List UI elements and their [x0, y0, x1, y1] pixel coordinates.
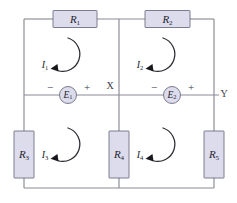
emf-source-E1: − E1 +	[47, 81, 90, 104]
mesh-current-I2-label: I2	[136, 59, 144, 71]
mesh-current-I3-arrowhead	[51, 154, 59, 162]
mesh-current-I3-arc	[58, 128, 80, 161]
mesh-current-I3: I3	[41, 128, 80, 162]
mesh-current-I1-label: I1	[41, 59, 49, 71]
mesh-current-I3-label: I3	[41, 149, 49, 161]
mesh-current-I2: I2	[136, 38, 175, 72]
resistor-R1: R1	[53, 11, 97, 28]
mesh-current-I4-arrowhead	[146, 154, 154, 162]
mesh-current-I4-label: I4	[136, 149, 144, 161]
emf-E1-plus-sign: +	[84, 81, 90, 93]
node-label-X: X	[106, 80, 114, 91]
mesh-current-I4-arc	[153, 128, 175, 161]
emf-E1-minus-sign: −	[47, 81, 53, 93]
circuit-svg: R1 R2 R3 R4 R5	[0, 0, 237, 203]
mesh-current-I1-arc	[58, 38, 80, 71]
resistor-R3: R3	[14, 131, 34, 178]
mesh-current-I2-arrowhead	[146, 64, 154, 72]
circuit-diagram: R1 R2 R3 R4 R5	[0, 0, 237, 203]
mesh-current-I4: I4	[136, 128, 175, 162]
emf-E2-plus-sign: +	[188, 81, 194, 93]
resistor-R4: R4	[109, 131, 129, 178]
resistor-R5: R5	[204, 131, 224, 178]
node-label-Y: Y	[220, 88, 227, 99]
mesh-current-I1: I1	[41, 38, 80, 72]
emf-source-E2: − E2 +	[151, 81, 194, 104]
emf-E2-minus-sign: −	[151, 81, 157, 93]
mesh-current-I2-arc	[153, 38, 175, 71]
resistor-R2: R2	[145, 11, 190, 28]
mesh-current-I1-arrowhead	[51, 64, 59, 72]
